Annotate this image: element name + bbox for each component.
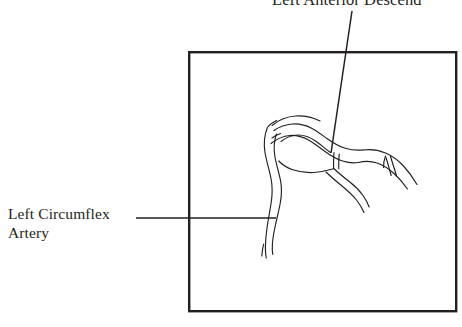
- lcx-distal-tick: [262, 244, 264, 256]
- label-lcx-line1: Left Circumflex: [8, 205, 110, 224]
- label-left-circumflex-artery: Left Circumflex Artery: [8, 205, 110, 243]
- label-lcx-line2: Artery: [8, 224, 110, 243]
- lcx-inner-wall: [272, 134, 281, 255]
- coronary-artery-illustration: [0, 0, 462, 327]
- leader-line-lad: [331, 11, 352, 153]
- vessel-linework: [262, 116, 417, 258]
- branch-tip-a: [386, 158, 391, 176]
- figure-page: Left Anterior Descend Left Circumflex Ar…: [0, 0, 462, 327]
- obtuse-marginal-branch: [279, 161, 334, 173]
- diagonal-branch-upper: [363, 150, 417, 185]
- leader-lines: [136, 11, 352, 218]
- lcx-outer-wall: [264, 128, 272, 259]
- diagonal-branch-lower-upper: [334, 169, 369, 208]
- label-left-anterior-descending: Left Anterior Descend: [272, 0, 422, 10]
- illustration-border: [189, 52, 456, 311]
- branch-tip-c: [384, 156, 386, 168]
